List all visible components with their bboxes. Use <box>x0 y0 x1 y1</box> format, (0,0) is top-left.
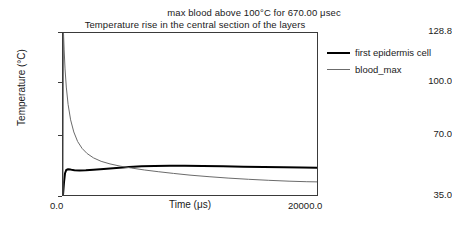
series-line <box>63 33 317 195</box>
chart-title: Temperature rise in the central section … <box>0 19 452 30</box>
y-axis-tick-label: 70.0 <box>394 128 452 139</box>
y-axis-tick-label: 128.8 <box>394 25 452 36</box>
legend-item: first epidermis cell <box>327 44 452 61</box>
y-axis-tick-mark <box>58 196 62 197</box>
x-axis-label: Time (μs) <box>62 199 318 210</box>
y-axis-tick-label: 35.0 <box>394 189 452 200</box>
legend-swatch-line-icon <box>327 69 350 70</box>
plot-lines <box>63 33 317 195</box>
legend-item-label: first epidermis cell <box>355 47 431 58</box>
legend-item-label: blood_max <box>355 64 401 75</box>
chart-legend: first epidermis cell blood_max <box>327 44 452 78</box>
legend-swatch-line-icon <box>327 52 350 54</box>
y-axis-label: Temperature (°C) <box>16 28 27 148</box>
plot-area <box>62 32 318 196</box>
chart-figure: max blood above 100°C for 670.00 μsec Te… <box>0 0 452 229</box>
legend-item: blood_max <box>327 61 452 78</box>
chart-annotation: max blood above 100°C for 670.00 μsec <box>0 7 452 18</box>
